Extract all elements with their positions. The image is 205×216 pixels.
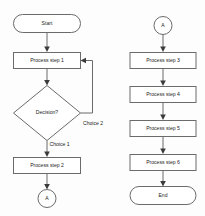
- step5-label: Process step 5: [146, 125, 180, 131]
- step6-label: Process step 6: [146, 159, 180, 165]
- node-decision[interactable]: Decision?: [14, 86, 81, 141]
- step3-label: Process step 3: [146, 57, 180, 63]
- step1-label: Process step 1: [30, 57, 64, 63]
- node-start[interactable]: Start: [14, 15, 81, 33]
- node-step1[interactable]: Process step 1: [14, 53, 81, 69]
- arrow-head-icon: [160, 81, 166, 87]
- arrow-head-icon: [44, 152, 50, 158]
- edge-step4-to-step5: [160, 103, 166, 121]
- edge-step5-to-step6: [160, 137, 166, 155]
- edge-step1-to-decision: [44, 69, 50, 86]
- edge-choice2-feedback: [81, 58, 93, 113]
- node-step6[interactable]: Process step 6: [130, 155, 196, 171]
- step4-label: Process step 4: [146, 91, 180, 97]
- connector-a-in-label: A: [161, 22, 165, 28]
- node-step5[interactable]: Process step 5: [130, 121, 196, 137]
- node-step3[interactable]: Process step 3: [130, 53, 196, 69]
- edge-label-choice2: Choice 2: [83, 120, 103, 126]
- node-connector-a-in[interactable]: A: [154, 17, 172, 35]
- decision-label: Decision?: [36, 109, 59, 115]
- edge-step6-to-end: [160, 171, 166, 187]
- arrow-head-icon: [44, 184, 50, 190]
- edge-connector-a-to-step3: [160, 35, 166, 53]
- arrow-head-icon: [44, 80, 50, 86]
- arrow-head-icon: [160, 115, 166, 121]
- flowchart-svg: Start Process step 1 Decision? Choice 2: [0, 0, 205, 216]
- arrow-head-icon: [81, 58, 87, 64]
- edge-path: [81, 61, 93, 114]
- node-step2[interactable]: Process step 2: [14, 158, 81, 174]
- node-connector-a-out[interactable]: A: [38, 190, 56, 208]
- edge-step2-to-connector-a: [44, 174, 50, 190]
- arrow-head-icon: [160, 181, 166, 187]
- node-end[interactable]: End: [130, 187, 196, 205]
- arrow-head-icon: [160, 149, 166, 155]
- start-label: Start: [42, 20, 53, 26]
- node-step4[interactable]: Process step 4: [130, 87, 196, 103]
- flowchart-canvas: Start Process step 1 Decision? Choice 2: [0, 0, 205, 216]
- connector-a-out-label: A: [45, 195, 49, 201]
- arrow-head-icon: [160, 47, 166, 53]
- step2-label: Process step 2: [30, 162, 64, 168]
- edge-step3-to-step4: [160, 69, 166, 87]
- arrow-head-icon: [44, 47, 50, 53]
- edge-start-to-step1: [44, 33, 50, 53]
- end-label: End: [158, 192, 167, 198]
- edge-label-choice1: Choice 1: [50, 141, 70, 147]
